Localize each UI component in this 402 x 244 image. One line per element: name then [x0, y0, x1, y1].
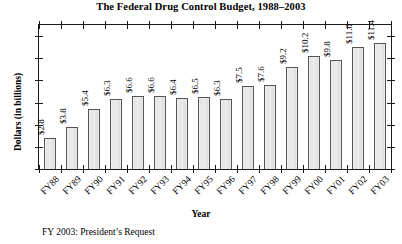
x-axis-tick: [325, 165, 326, 173]
bar-value-label: $11.4: [366, 20, 376, 40]
bar-slot: $6.3: [105, 25, 127, 169]
bar-slot: $5.4: [83, 25, 105, 169]
x-axis-tick-top: [193, 21, 194, 29]
x-axis-tick-top: [281, 21, 282, 29]
y-axis-tick-right: [387, 125, 395, 126]
x-axis-tick-top: [127, 21, 128, 29]
chart-title: The Federal Drug Control Budget, 1988–20…: [0, 1, 402, 12]
x-axis-tick-top: [61, 21, 62, 29]
bar[interactable]: [132, 96, 144, 169]
y-axis-tick-right: [387, 80, 395, 81]
bar[interactable]: [374, 43, 386, 169]
bar-slot: $6.4: [171, 25, 193, 169]
x-axis-tick-top: [259, 21, 260, 29]
x-axis-tick: [105, 165, 106, 173]
bar[interactable]: [66, 127, 78, 169]
bar-value-label: $10.2: [300, 33, 310, 53]
bar-value-label: $11.0: [344, 24, 354, 44]
y-axis-tick-right: [387, 36, 395, 37]
x-axis-tick: [171, 165, 172, 173]
bar-value-label: $6.3: [102, 80, 112, 96]
bar-value-label: $3.8: [58, 108, 68, 124]
bar-value-label: $9.2: [278, 48, 288, 64]
bar[interactable]: [154, 96, 166, 169]
x-axis-tick-top: [83, 21, 84, 29]
bar-value-label: $6.6: [146, 77, 156, 93]
x-axis-tick-top: [149, 21, 150, 29]
x-axis-title: Year: [0, 209, 402, 219]
bar[interactable]: [198, 97, 210, 169]
bar-value-label: $7.5: [234, 67, 244, 83]
bar[interactable]: [242, 86, 254, 169]
bar-value-label: $6.5: [190, 78, 200, 94]
x-axis-tick: [347, 165, 348, 173]
bar[interactable]: [220, 99, 232, 169]
x-axis-tick: [303, 165, 304, 173]
y-axis-tick: [35, 125, 43, 126]
bar-value-label: $9.8: [322, 42, 332, 58]
y-axis-tick: [35, 80, 43, 81]
x-axis-tick: [193, 165, 194, 173]
bar-slot: $6.6: [149, 25, 171, 169]
x-axis-tick-top: [171, 21, 172, 29]
bar[interactable]: [308, 56, 320, 169]
x-axis-tick-top: [369, 21, 370, 29]
bar-slot: $9.8: [325, 25, 347, 169]
bar[interactable]: [264, 85, 276, 169]
x-axis-tick: [281, 165, 282, 173]
bar[interactable]: [176, 98, 188, 169]
x-axis-tick: [237, 165, 238, 173]
bar-slot: $6.6: [127, 25, 149, 169]
x-axis-tick: [149, 165, 150, 173]
bar-value-label: $6.4: [168, 79, 178, 95]
plot-inner: $2.8$3.8$5.4$6.3$6.6$6.6$6.4$6.5$6.3$7.5…: [39, 25, 391, 169]
chart-figure: The Federal Drug Control Budget, 1988–20…: [0, 0, 402, 244]
bar-value-label: $6.3: [212, 80, 222, 96]
bar-value-label: $2.8: [36, 119, 46, 135]
bar[interactable]: [88, 109, 100, 169]
bar[interactable]: [286, 67, 298, 169]
x-axis-tick: [39, 165, 40, 173]
y-axis-tick-right: [387, 58, 395, 59]
bar[interactable]: [330, 60, 342, 169]
chart-footnote: FY 2003: President’s Request: [42, 227, 155, 237]
x-axis-tick-top: [105, 21, 106, 29]
bar[interactable]: [110, 99, 122, 169]
x-axis-tick-top: [347, 21, 348, 29]
x-axis-tick: [369, 165, 370, 173]
y-axis-title: Dollars (in billions): [13, 52, 23, 172]
x-axis-tick: [127, 165, 128, 173]
x-axis-tick-top: [303, 21, 304, 29]
bar-slot: $6.5: [193, 25, 215, 169]
plot-area: $2.8$3.8$5.4$6.3$6.6$6.6$6.4$6.5$6.3$7.5…: [38, 24, 392, 170]
x-axis-tick-top: [391, 21, 392, 29]
x-axis-tick: [215, 165, 216, 173]
y-axis-tick: [35, 147, 43, 148]
x-axis-tick-top: [39, 21, 40, 29]
y-axis-tick: [35, 103, 43, 104]
bar-value-label: $6.6: [124, 77, 134, 93]
y-axis-tick: [35, 58, 43, 59]
bar-value-label: $5.4: [80, 90, 90, 106]
bar-slot: $6.3: [215, 25, 237, 169]
x-axis-tick-top: [325, 21, 326, 29]
bar[interactable]: [352, 47, 364, 169]
x-axis-tick: [83, 165, 84, 173]
x-axis-tick-top: [237, 21, 238, 29]
x-axis-tick: [259, 165, 260, 173]
bar-slot: $11.0: [347, 25, 369, 169]
y-axis-tick: [35, 36, 43, 37]
bar-value-label: $7.6: [256, 66, 266, 82]
bar-slot: $7.6: [259, 25, 281, 169]
y-axis-tick-right: [387, 147, 395, 148]
bar-slot: $7.5: [237, 25, 259, 169]
x-axis-tick: [391, 165, 392, 173]
x-axis-tick-top: [215, 21, 216, 29]
y-axis-tick-right: [387, 103, 395, 104]
bar[interactable]: [44, 138, 56, 169]
x-axis-tick: [61, 165, 62, 173]
